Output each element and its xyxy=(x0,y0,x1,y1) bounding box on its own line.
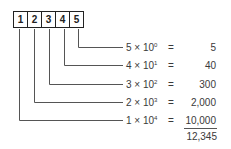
row-ten-thousands: 1 × 104 = 10,000 xyxy=(126,114,216,126)
row-ones: 5 × 100 = 5 xyxy=(126,41,216,53)
value: 40 xyxy=(182,60,216,71)
connector-hundreds xyxy=(50,29,124,85)
expression: 1 × 104 xyxy=(126,115,168,126)
value: 5 xyxy=(182,42,216,53)
expression: 5 × 100 xyxy=(126,42,168,53)
row-hundreds: 3 × 102 = 300 xyxy=(126,78,216,90)
equals-sign: = xyxy=(168,115,182,126)
connector-lines xyxy=(0,0,231,149)
row-tens: 4 × 101 = 40 xyxy=(126,59,216,71)
equals-sign: = xyxy=(168,79,182,90)
expression: 2 × 103 xyxy=(126,97,168,108)
equals-sign: = xyxy=(168,97,182,108)
value: 2,000 xyxy=(182,97,216,108)
value: 10,000 xyxy=(182,115,216,126)
equals-sign: = xyxy=(168,60,182,71)
total-value: 12,345 xyxy=(176,131,217,142)
connector-ten-thousands xyxy=(20,29,124,121)
expression: 3 × 102 xyxy=(126,79,168,90)
sum-underline xyxy=(184,128,217,129)
equals-sign: = xyxy=(168,42,182,53)
expression: 4 × 101 xyxy=(126,60,168,71)
connector-ones xyxy=(79,29,124,48)
row-thousands: 2 × 103 = 2,000 xyxy=(126,96,216,108)
value: 300 xyxy=(182,79,216,90)
